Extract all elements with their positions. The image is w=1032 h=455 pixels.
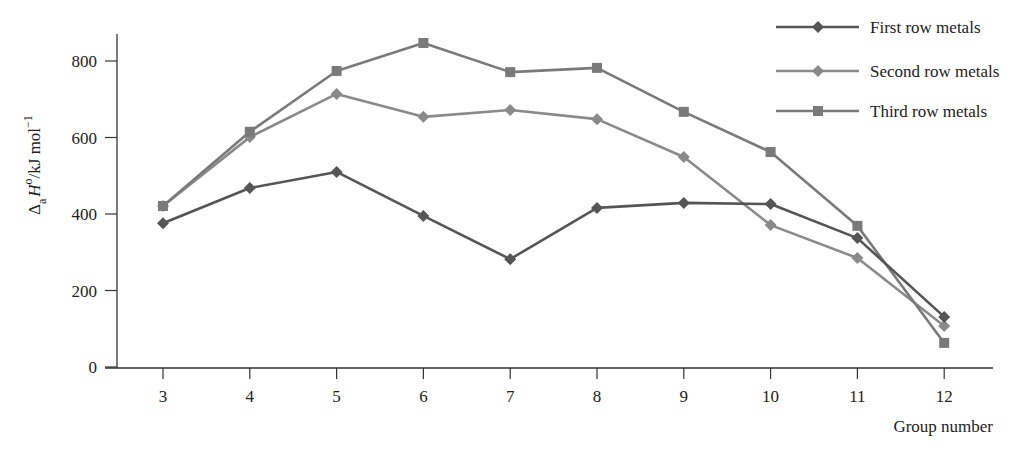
svg-text:ΔaHo/kJ mol−1: ΔaHo/kJ mol−1 xyxy=(21,115,49,215)
x-tick-label: 3 xyxy=(159,387,168,406)
diamond-marker xyxy=(244,182,256,194)
square-marker xyxy=(245,127,255,137)
diamond-marker xyxy=(157,217,169,229)
x-tick-label: 12 xyxy=(936,387,953,406)
legend-label: Second row metals xyxy=(870,62,999,81)
series-line xyxy=(163,94,944,326)
legend-item: First row metals xyxy=(776,18,981,37)
diamond-marker xyxy=(331,88,343,100)
y-tick-label: 200 xyxy=(72,282,98,301)
x-tick-label: 4 xyxy=(246,387,255,406)
series-line xyxy=(163,43,944,343)
square-marker xyxy=(505,67,515,77)
x-tick-label: 6 xyxy=(419,387,428,406)
x-tick-label: 7 xyxy=(506,387,515,406)
y-tick-label: 800 xyxy=(72,52,98,71)
x-tick-label: 8 xyxy=(593,387,602,406)
square-marker xyxy=(766,147,776,157)
diamond-marker xyxy=(504,253,516,265)
legend-item: Third row metals xyxy=(776,102,987,121)
x-tick-label: 9 xyxy=(680,387,689,406)
x-tick-label: 5 xyxy=(332,387,341,406)
series-line xyxy=(163,172,944,317)
legend-square-marker xyxy=(813,106,823,116)
diamond-marker xyxy=(417,111,429,123)
diamond-marker xyxy=(331,166,343,178)
legend-label: Third row metals xyxy=(870,102,987,121)
square-marker xyxy=(158,201,168,211)
y-tick-label: 400 xyxy=(72,205,98,224)
x-axis-title: Group number xyxy=(893,417,993,436)
x-tick-label: 10 xyxy=(762,387,779,406)
y-tick-label: 600 xyxy=(72,129,98,148)
square-marker xyxy=(592,63,602,73)
legend-diamond-marker xyxy=(812,65,824,77)
legend-label: First row metals xyxy=(870,18,981,37)
square-marker xyxy=(939,338,949,348)
diamond-marker xyxy=(417,210,429,222)
square-marker xyxy=(418,38,428,48)
series-layer xyxy=(157,38,950,348)
legend-diamond-marker xyxy=(812,21,824,33)
square-marker xyxy=(332,66,342,76)
axes: 02004006008003456789101112 xyxy=(72,34,994,406)
legend: First row metalsSecond row metalsThird r… xyxy=(776,18,999,121)
y-axis-title: ΔaHo/kJ mol−1 xyxy=(21,115,49,215)
legend-item: Second row metals xyxy=(776,62,999,81)
x-tick-label: 11 xyxy=(849,387,865,406)
diamond-marker xyxy=(678,197,690,209)
y-tick-label: 0 xyxy=(89,358,98,377)
series-third-row-metals xyxy=(158,38,949,348)
diamond-marker xyxy=(504,104,516,116)
line-chart: 02004006008003456789101112 ΔaHo/kJ mol−1… xyxy=(0,0,1032,455)
diamond-marker xyxy=(591,113,603,125)
series-first-row-metals xyxy=(157,166,950,323)
square-marker xyxy=(852,221,862,231)
diamond-marker xyxy=(765,198,777,210)
series-second-row-metals xyxy=(157,88,950,332)
square-marker xyxy=(679,107,689,117)
diamond-marker xyxy=(591,202,603,214)
